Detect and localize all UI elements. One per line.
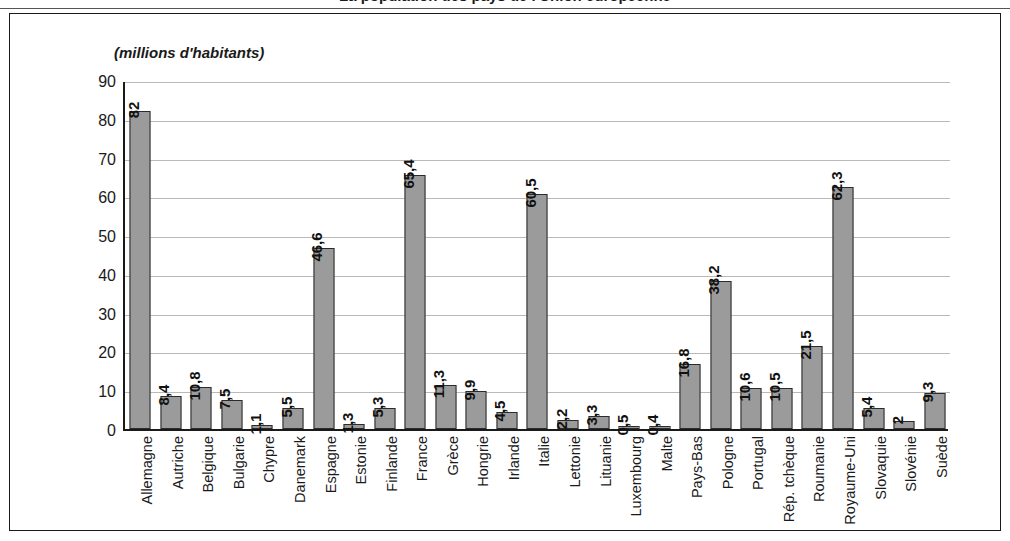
bar[interactable]: 5,4 bbox=[863, 408, 884, 429]
bar-slot[interactable]: 8,4Autriche bbox=[156, 80, 187, 429]
x-axis-category-label: Estonie bbox=[354, 436, 369, 484]
bar[interactable]: 4,5 bbox=[496, 412, 517, 429]
bar-slot[interactable]: 62,3Royaume-Uni bbox=[828, 80, 859, 429]
bar-slot[interactable]: 16,8Pays-Bas bbox=[675, 80, 706, 429]
bar-value-label: 10,5 bbox=[767, 373, 782, 402]
y-axis-tick-label: 60 bbox=[98, 189, 116, 207]
bar[interactable]: 38,2 bbox=[710, 281, 731, 429]
bar-value-label: 9,3 bbox=[920, 382, 935, 403]
x-axis-category-label: Pologne bbox=[721, 436, 736, 489]
bar[interactable]: 9,3 bbox=[924, 393, 945, 429]
bar-slot[interactable]: 5,4Slovaquie bbox=[858, 80, 889, 429]
bar-slot[interactable]: 11,3Grèce bbox=[431, 80, 462, 429]
bar[interactable]: 0,5 bbox=[619, 426, 640, 429]
y-axis-unit-caption: (millions d'habitants) bbox=[114, 44, 264, 61]
x-axis-category-label: Slovaquie bbox=[874, 436, 889, 500]
bar[interactable]: 5,3 bbox=[374, 408, 395, 429]
bar-slot[interactable]: 38,2Pologne bbox=[706, 80, 737, 429]
bar-value-label: 1,3 bbox=[339, 413, 354, 434]
x-axis-category-label: France bbox=[415, 436, 430, 481]
x-axis-category-label: Finlande bbox=[385, 436, 400, 492]
bar[interactable]: 1,3 bbox=[344, 424, 365, 429]
bar[interactable]: 46,6 bbox=[313, 248, 334, 429]
bar[interactable]: 2,2 bbox=[558, 420, 579, 429]
x-axis-category-label: Allemagne bbox=[140, 436, 155, 505]
bar[interactable]: 65,4 bbox=[405, 175, 426, 429]
bar[interactable]: 82 bbox=[130, 111, 151, 429]
y-axis-tick-label: 10 bbox=[98, 383, 116, 401]
bar[interactable]: 9,9 bbox=[466, 391, 487, 429]
bar[interactable]: 3,3 bbox=[588, 416, 609, 429]
bar[interactable]: 0,4 bbox=[649, 426, 670, 429]
bar-slot[interactable]: 10,5Rép. tchèque bbox=[767, 80, 798, 429]
y-axis-tick-label: 70 bbox=[98, 151, 116, 169]
y-axis-tick-label: 90 bbox=[98, 73, 116, 91]
bar-value-label: 5,5 bbox=[278, 396, 293, 417]
bar-value-label: 1,1 bbox=[247, 413, 262, 434]
bar-slot[interactable]: 9,3Suède bbox=[919, 80, 950, 429]
population-bar-chart-figure: La population des pays de l'Union europé… bbox=[0, 0, 1010, 541]
bar-slot[interactable]: 65,4France bbox=[400, 80, 431, 429]
bar-value-label: 60,5 bbox=[522, 179, 537, 208]
x-axis-category-label: Rép. tchèque bbox=[782, 436, 797, 522]
bar-value-label: 0,4 bbox=[645, 415, 660, 436]
bar[interactable]: 62,3 bbox=[833, 187, 854, 429]
bar-value-label: 0,5 bbox=[614, 415, 629, 436]
bar[interactable]: 10,5 bbox=[771, 388, 792, 429]
x-axis-category-label: Autriche bbox=[171, 436, 186, 489]
bar-value-label: 62,3 bbox=[828, 172, 843, 201]
bar[interactable]: 10,6 bbox=[741, 388, 762, 429]
y-axis-tick-label: 30 bbox=[98, 306, 116, 324]
bar-slot[interactable]: 2Slovénie bbox=[889, 80, 920, 429]
y-axis-tick-label: 20 bbox=[98, 344, 116, 362]
bar-value-label: 11,3 bbox=[431, 370, 446, 398]
bar-series: 82Allemagne8,4Autriche10,8Belgique7,5Bul… bbox=[125, 80, 950, 429]
y-axis-tick-label: 80 bbox=[98, 112, 116, 130]
bar[interactable]: 7,5 bbox=[221, 400, 242, 429]
bar-value-label: 7,5 bbox=[217, 388, 232, 409]
bar[interactable]: 10,8 bbox=[191, 387, 212, 429]
bar[interactable]: 21,5 bbox=[802, 346, 823, 429]
y-axis-tick-label: 40 bbox=[98, 267, 116, 285]
bar[interactable]: 60,5 bbox=[527, 194, 548, 429]
x-axis-category-label: Pays-Bas bbox=[690, 436, 705, 498]
bar-value-label: 9,9 bbox=[461, 379, 476, 400]
x-axis-category-label: Espagne bbox=[324, 436, 339, 493]
bar-value-label: 2,2 bbox=[553, 409, 568, 430]
bar-slot[interactable]: 5,5Danemark bbox=[278, 80, 309, 429]
bar[interactable]: 8,4 bbox=[160, 396, 181, 429]
bar-slot[interactable]: 1,1Chypre bbox=[247, 80, 278, 429]
bar-value-label: 16,8 bbox=[675, 348, 690, 377]
bar-slot[interactable]: 46,6Espagne bbox=[308, 80, 339, 429]
bar-slot[interactable]: 82Allemagne bbox=[125, 80, 156, 429]
bar-slot[interactable]: 10,6Portugal bbox=[736, 80, 767, 429]
x-axis-category-label: Lettonie bbox=[568, 436, 583, 488]
bar[interactable]: 1,1 bbox=[252, 425, 273, 429]
x-axis-category-label: Slovénie bbox=[904, 436, 919, 492]
bar-slot[interactable]: 4,5Irlande bbox=[492, 80, 523, 429]
bar-slot[interactable]: 3,3Lituanie bbox=[583, 80, 614, 429]
bar-slot[interactable]: 21,5Roumanie bbox=[797, 80, 828, 429]
bar-value-label: 38,2 bbox=[706, 265, 721, 294]
bar-slot[interactable]: 10,8Belgique bbox=[186, 80, 217, 429]
x-axis-category-label: Belgique bbox=[201, 436, 216, 492]
bar-slot[interactable]: 7,5Bulgarie bbox=[217, 80, 248, 429]
bar-slot[interactable]: 2,2Lettonie bbox=[553, 80, 584, 429]
bar-value-label: 5,3 bbox=[370, 397, 385, 418]
bar[interactable]: 16,8 bbox=[680, 364, 701, 429]
bar-slot[interactable]: 9,9Hongrie bbox=[461, 80, 492, 429]
x-axis-category-label: Hongrie bbox=[476, 436, 491, 487]
plot-area: 0102030405060708090 82Allemagne8,4Autric… bbox=[123, 82, 948, 431]
bar-slot[interactable]: 0,4Malte bbox=[644, 80, 675, 429]
bar-slot[interactable]: 60,5Italie bbox=[522, 80, 553, 429]
bar[interactable]: 11,3 bbox=[435, 385, 456, 429]
bar[interactable]: 5,5 bbox=[283, 408, 304, 429]
bar[interactable]: 2 bbox=[894, 421, 915, 429]
bar-slot[interactable]: 5,3Finlande bbox=[369, 80, 400, 429]
bar-value-label: 5,4 bbox=[859, 397, 874, 418]
x-axis-category-label: Grèce bbox=[446, 436, 461, 476]
bar-slot[interactable]: 1,3Estonie bbox=[339, 80, 370, 429]
bar-value-label: 65,4 bbox=[400, 160, 415, 189]
x-axis-category-label: Chypre bbox=[262, 436, 277, 483]
bar-slot[interactable]: 0,5Luxembourg bbox=[614, 80, 645, 429]
